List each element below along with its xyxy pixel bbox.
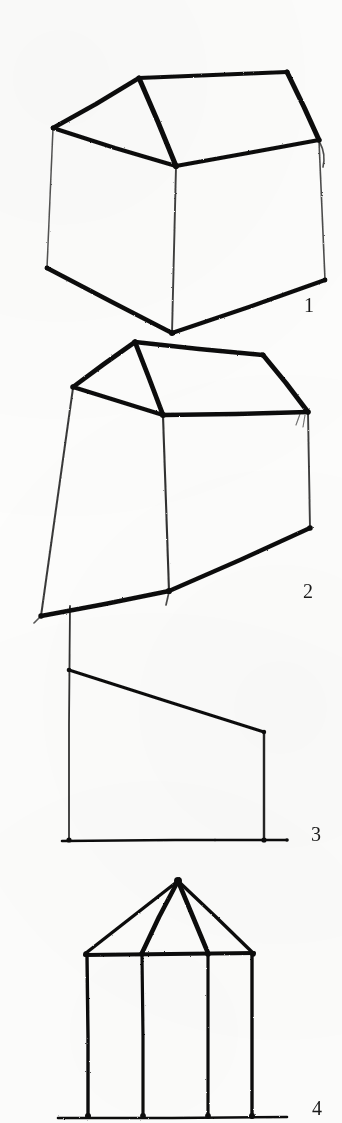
hip-rafter-mid-right: [178, 881, 208, 953]
base-blob: [85, 1113, 91, 1119]
right-eave: [176, 140, 319, 166]
right-gable-rake: [263, 355, 308, 412]
sketch-drawing-canvas: [0, 0, 342, 1123]
hip-rafter-far-right: [178, 881, 253, 953]
left-ground-edge: [47, 268, 172, 333]
near-hip-rafter: [139, 78, 176, 166]
ground-line: [62, 840, 287, 841]
left-eave: [53, 128, 176, 166]
left-gable-rake: [53, 78, 139, 128]
vertex-blob: [45, 266, 50, 271]
ground-dot: [285, 838, 289, 842]
vertex-blob: [250, 951, 256, 957]
vertex-blob: [66, 837, 71, 842]
roof-slope: [69, 670, 264, 732]
apex-blob: [174, 877, 182, 885]
left-gable-rake: [73, 342, 135, 387]
near-hip-rafter: [135, 342, 163, 415]
vertex-blob: [67, 668, 72, 673]
vertex-blob: [261, 837, 266, 842]
figure-2-gabled-house-perspective-tall: [34, 339, 313, 623]
right-gable-rake: [287, 72, 319, 140]
hip-rafter-mid-left: [142, 881, 178, 953]
vertex-blob: [139, 951, 145, 957]
figure-1-caption: 1: [304, 295, 314, 315]
vertex-blob: [83, 951, 89, 957]
eave-beam: [85, 953, 254, 955]
near-corner-post: [172, 167, 176, 333]
ridge-line: [139, 72, 287, 78]
base-blob: [205, 1113, 211, 1119]
vertex-blob: [307, 525, 313, 531]
left-wall-post: [41, 388, 73, 616]
vertex-blob: [38, 613, 43, 618]
right-ground-edge: [169, 528, 310, 591]
vertex-blob: [51, 126, 56, 131]
left-wall-post: [47, 128, 53, 268]
vertex-blob: [284, 69, 289, 74]
figure-4-hipped-pavilion-elevation: [58, 877, 287, 1119]
vertex-blob: [169, 330, 175, 336]
figure-3-mono-pitch-elevation: [62, 606, 289, 843]
right-eave-tail: [296, 414, 305, 427]
base-blob: [249, 1113, 255, 1119]
vertex-blob: [323, 278, 328, 283]
ground-dot: [214, 839, 216, 841]
right-eave: [163, 412, 308, 415]
vertex-blob: [305, 409, 311, 415]
left-ground-edge: [41, 591, 169, 616]
figure-4-caption: 4: [312, 1098, 322, 1118]
figure-2-caption: 2: [303, 581, 313, 601]
vertex-blob: [132, 339, 138, 345]
vertex-blob: [262, 730, 266, 734]
vertex-blob: [260, 352, 265, 357]
vertex-blob: [70, 384, 75, 389]
post-1: [87, 956, 88, 1117]
hip-rafter-far-left: [86, 881, 178, 953]
ridge-line: [135, 342, 263, 355]
figure-3-caption: 3: [311, 824, 321, 844]
right-ground-edge: [172, 280, 325, 333]
left-eave: [73, 387, 163, 415]
vertex-blob: [160, 412, 166, 418]
vertex-blob: [205, 951, 211, 957]
vertex-blob: [173, 163, 179, 169]
base-blob: [140, 1113, 146, 1119]
left-post: [69, 606, 70, 841]
vertex-blob: [316, 137, 321, 142]
right-wall-post: [308, 413, 310, 528]
post-2: [142, 956, 143, 1117]
vertex-blob: [137, 76, 142, 81]
figure-1-gabled-house-perspective-wide: [45, 69, 328, 336]
vertex-blob: [166, 588, 172, 594]
near-corner-post: [163, 416, 169, 591]
scanned-sketch-page: 1 2 3 4: [0, 0, 342, 1123]
